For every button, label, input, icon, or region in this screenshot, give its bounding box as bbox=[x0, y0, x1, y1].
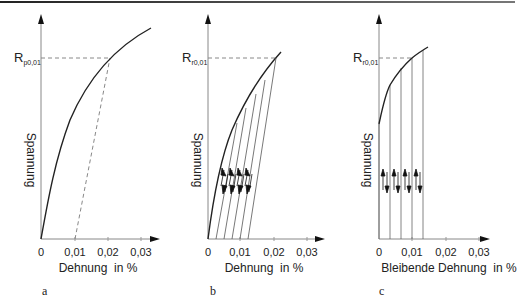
x-axis-arrow-icon bbox=[150, 236, 160, 242]
panel-caption-c: c bbox=[379, 284, 384, 299]
x-tick-1: 0,01 bbox=[229, 246, 250, 258]
offset-line bbox=[75, 58, 110, 239]
y-axis-label: Spannung bbox=[361, 133, 375, 188]
x-tick-1: 0,01 bbox=[401, 246, 422, 258]
panel-c bbox=[376, 14, 490, 242]
rr-marker-label: Rr0,01 bbox=[353, 50, 378, 66]
x-axis-arrow-icon bbox=[315, 236, 325, 242]
x-axis-label: Dehnung in % bbox=[225, 261, 304, 275]
y-axis-label: Spannung bbox=[191, 133, 205, 188]
x-tick-0: 0 bbox=[376, 246, 382, 258]
x-tick-2: 0,02 bbox=[435, 246, 456, 258]
x-tick-0: 0 bbox=[205, 246, 211, 258]
y-axis-label: Spannung bbox=[24, 133, 38, 188]
x-axis-label: Dehnung in % bbox=[59, 261, 138, 275]
x-tick-2: 0,02 bbox=[97, 246, 118, 258]
panel-caption-b: b bbox=[210, 284, 216, 299]
y-axis-arrow-icon bbox=[376, 14, 382, 24]
x-axis-label: Bleibende Dehnung in % bbox=[381, 261, 517, 275]
x-tick-1: 0,01 bbox=[64, 246, 85, 258]
x-tick-2: 0,02 bbox=[263, 246, 284, 258]
y-axis-arrow-icon bbox=[38, 14, 44, 24]
x-tick-3: 0,03 bbox=[468, 246, 489, 258]
panel-a bbox=[38, 14, 160, 242]
x-axis-arrow-icon bbox=[480, 236, 490, 242]
panel-b bbox=[205, 14, 325, 242]
figure-svg: Rp0,01 Spannung 0 0,01 0,02 0,03 Dehnung… bbox=[0, 0, 526, 306]
load-unload-arrows-icon bbox=[381, 169, 422, 193]
x-tick-0: 0 bbox=[38, 246, 44, 258]
stress-strain-curve bbox=[41, 28, 151, 239]
x-tick-3: 0,03 bbox=[296, 246, 317, 258]
load-unload-arrows-icon bbox=[221, 168, 252, 194]
rp-marker-label: Rp0,01 bbox=[14, 50, 41, 67]
rr-marker-label: Rr0,01 bbox=[182, 50, 207, 66]
stress-permanent-strain-curve bbox=[379, 47, 428, 124]
panel-caption-a: a bbox=[42, 284, 47, 299]
permanent-strain-lines bbox=[379, 50, 423, 239]
y-axis-arrow-icon bbox=[205, 14, 211, 24]
x-tick-3: 0,03 bbox=[130, 246, 151, 258]
